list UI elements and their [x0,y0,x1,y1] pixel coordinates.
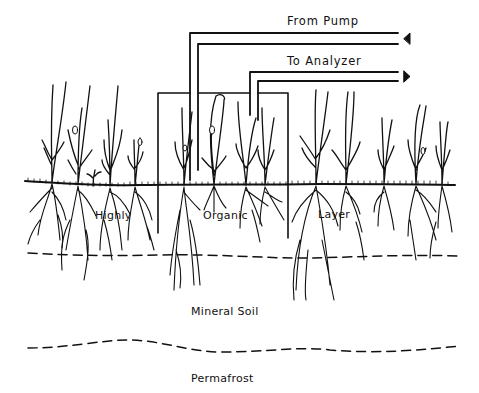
diagram-drawing [0,0,479,393]
layer-label: Layer [318,208,350,221]
to-analyzer-tube [250,72,398,120]
plant-shoots [42,82,450,186]
to-analyzer-label: To Analyzer [287,54,362,68]
permafrost-label: Permafrost [191,372,254,385]
plant-roots [28,184,452,300]
organic-label: Organic [203,209,248,222]
mineral-permafrost-boundary [28,340,460,352]
highly-label: Highly [95,209,132,222]
organic-mineral-boundary [28,253,460,258]
ground-surface-line [25,181,455,185]
mineral-soil-label: Mineral Soil [191,305,259,318]
from-pump-label: From Pump [287,14,359,28]
from-pump-arrow-icon [404,33,410,44]
to-analyzer-arrow-icon [404,71,410,82]
